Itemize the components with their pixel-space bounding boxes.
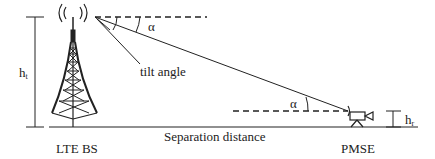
alpha-bottom-arc <box>306 97 308 111</box>
ht-label-sub: t <box>26 72 28 81</box>
hr-label: hr <box>405 113 414 128</box>
hr-bracket <box>386 111 401 127</box>
separation-distance-label: Separation distance <box>164 130 265 143</box>
alpha-bottom-label: α <box>290 97 297 110</box>
hr-label-sub: r <box>412 119 415 128</box>
lte-tower-icon <box>52 4 97 127</box>
lte-bs-label: LTE BS <box>56 142 98 155</box>
beam-line <box>95 17 348 111</box>
ht-bracket <box>26 17 44 127</box>
pmse-camera-icon <box>348 106 373 127</box>
alpha-top-label: α <box>148 20 155 33</box>
tilt-angle-label: tilt angle <box>140 65 186 78</box>
ht-label: ht <box>19 66 28 81</box>
alpha-top-arc <box>136 17 140 32</box>
pmse-label: PMSE <box>341 142 375 155</box>
